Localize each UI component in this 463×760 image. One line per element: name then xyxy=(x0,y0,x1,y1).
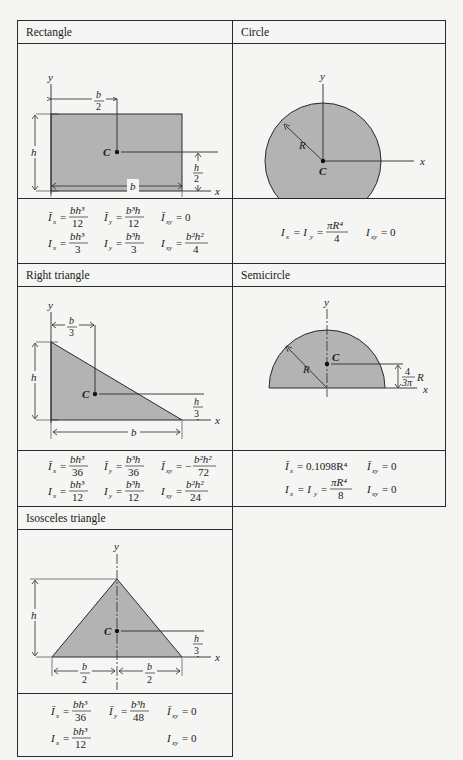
cell-semicircle: Semicircle y x R C 4 3π R Ī x = 0 xyxy=(232,263,446,507)
rectangle-diagram: y x C b 2 h h xyxy=(18,44,232,197)
svg-text:=: = xyxy=(60,460,66,472)
svg-text:= 0: = 0 xyxy=(182,732,197,744)
cell-title: Circle xyxy=(233,21,445,44)
cell-title: Rectangle xyxy=(18,21,232,44)
svg-text:b: b xyxy=(96,89,101,100)
svg-text:x: x xyxy=(419,155,425,167)
svg-text:3: 3 xyxy=(131,243,137,255)
svg-text:4: 4 xyxy=(405,366,410,377)
svg-text:b²h²: b²h² xyxy=(194,453,212,465)
svg-text:= I: = I xyxy=(297,483,312,495)
svg-text:= 0: = 0 xyxy=(382,483,397,495)
right-triangle-formulas: Ī x = bh³ 36 Ī y = b³h 36 Ī xy = − b²h² … xyxy=(18,450,232,506)
svg-text:=: = xyxy=(116,237,122,249)
svg-text:4: 4 xyxy=(334,232,340,244)
cell-circle: Circle y x R C I x = I y = πR⁴ 4 xyxy=(232,20,446,264)
svg-text:12: 12 xyxy=(128,491,139,503)
svg-text:y: y xyxy=(47,299,53,311)
svg-text:b: b xyxy=(130,180,136,192)
svg-text:b²h²: b²h² xyxy=(186,230,204,242)
svg-text:24: 24 xyxy=(190,491,202,503)
svg-text:=: = xyxy=(317,226,323,238)
svg-text:x: x xyxy=(214,414,220,426)
svg-text:y: y xyxy=(113,540,119,552)
svg-text:=: = xyxy=(116,460,122,472)
svg-text:y: y xyxy=(108,492,113,500)
svg-text:x: x xyxy=(285,233,290,241)
svg-text:b³h: b³h xyxy=(126,204,141,216)
svg-text:y: y xyxy=(313,490,318,498)
svg-text:b: b xyxy=(69,315,74,326)
svg-text:y: y xyxy=(108,244,113,252)
svg-text:y: y xyxy=(108,467,113,475)
svg-text:bh³: bh³ xyxy=(70,230,85,242)
svg-text:=: = xyxy=(60,237,66,249)
svg-text:xy: xy xyxy=(165,218,173,226)
svg-text:=: = xyxy=(60,211,66,223)
svg-text:x: x xyxy=(289,490,294,498)
semicircle-figure: y x R C 4 3π R xyxy=(233,287,445,450)
rectangle-formulas: Ī x = bh³ 12 Ī y = b³h 12 Ī xy = 0 I x =… xyxy=(18,198,232,263)
svg-text:b³h: b³h xyxy=(126,478,141,490)
svg-text:y: y xyxy=(113,712,118,720)
svg-text:b: b xyxy=(147,661,152,672)
svg-text:=: = xyxy=(116,211,122,223)
svg-text:y: y xyxy=(108,218,113,226)
svg-text:b³h: b³h xyxy=(126,453,141,465)
svg-text:36: 36 xyxy=(75,711,87,723)
svg-text:3: 3 xyxy=(75,243,81,255)
svg-text:8: 8 xyxy=(338,489,344,501)
svg-text:=: = xyxy=(63,705,69,717)
svg-text:2: 2 xyxy=(82,674,87,685)
isosceles-triangle-diagram: y x C h h 3 b xyxy=(18,530,232,693)
svg-text:b²h²: b²h² xyxy=(186,478,204,490)
svg-text:bh³: bh³ xyxy=(70,204,85,216)
rectangle-figure: y x C b 2 h h xyxy=(18,44,232,197)
svg-text:y: y xyxy=(319,70,325,82)
svg-text:h: h xyxy=(31,371,37,383)
svg-text:=: = xyxy=(176,485,182,497)
isosceles-triangle-formulas: Ī x = bh³ 36 Ī y = b³h 48 Ī xy = 0 I x =… xyxy=(18,693,232,756)
svg-text:h: h xyxy=(194,633,199,644)
cell-title: Isosceles triangle xyxy=(18,507,232,530)
svg-text:h: h xyxy=(31,609,37,621)
svg-text:b: b xyxy=(82,661,87,672)
svg-text:C: C xyxy=(332,351,340,363)
svg-text:x: x xyxy=(422,383,428,395)
cell-right-triangle: Right triangle y x C b 3 h xyxy=(17,263,233,507)
semicircle-formulas: Ī x = 0.1098R⁴ Ī xy = 0 I x = I y = πR⁴ … xyxy=(233,450,445,506)
right-triangle-figure: y x C b 3 h h 3 xyxy=(18,287,232,450)
svg-text:36: 36 xyxy=(72,466,84,478)
svg-text:=: = xyxy=(121,705,127,717)
svg-text:= I: = I xyxy=(293,226,308,238)
svg-text:=: = xyxy=(116,485,122,497)
svg-text:C: C xyxy=(103,146,111,158)
svg-text:x: x xyxy=(52,467,57,475)
isosceles-triangle-figure: y x C h h 3 b xyxy=(18,530,232,693)
circle-formulas: I x = I y = πR⁴ 4 I xy = 0 xyxy=(233,198,445,263)
svg-text:b³h: b³h xyxy=(131,698,146,710)
svg-text:=: = xyxy=(176,237,182,249)
svg-text:y: y xyxy=(47,71,53,83)
svg-text:R: R xyxy=(298,139,306,151)
svg-text:bh³: bh³ xyxy=(73,698,88,710)
svg-text:= −: = − xyxy=(176,460,191,472)
svg-text:bh³: bh³ xyxy=(70,453,85,465)
svg-text:=: = xyxy=(60,485,66,497)
svg-text:y: y xyxy=(309,233,314,241)
svg-text:x: x xyxy=(289,467,294,475)
svg-text:y: y xyxy=(323,296,329,308)
svg-text:x: x xyxy=(214,651,220,663)
svg-text:C: C xyxy=(104,625,112,637)
svg-text:b: b xyxy=(131,426,137,438)
svg-text:= 0: = 0 xyxy=(382,460,397,472)
cell-isosceles-triangle: Isosceles triangle y x C h h 3 xyxy=(17,506,233,757)
svg-text:=: = xyxy=(63,732,69,744)
svg-text:C: C xyxy=(319,165,327,177)
svg-text:48: 48 xyxy=(133,711,145,723)
svg-text:h: h xyxy=(194,396,199,407)
svg-text:xy: xy xyxy=(371,467,379,475)
svg-text:h: h xyxy=(31,146,37,158)
svg-text:xy: xy xyxy=(171,712,179,720)
svg-text:12: 12 xyxy=(75,738,86,750)
